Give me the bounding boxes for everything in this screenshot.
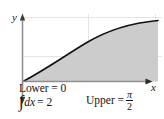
fraction-numerator: π	[126, 90, 133, 101]
pi-over-two-fraction: π 2	[126, 90, 133, 112]
upper-limit-label: Upper =	[86, 95, 124, 107]
integral-dx-label: dx	[24, 97, 35, 109]
fraction-denominator: 2	[126, 101, 133, 112]
integral-expression: ∫ dx = 2	[19, 96, 52, 109]
math-figure-area-under-curve: y x Lower = 0 ∫ dx = 2 Upper = π 2	[0, 0, 164, 119]
lower-limit-label: Lower = 0	[19, 83, 66, 95]
upper-limit-expression: Upper = π 2	[86, 90, 133, 112]
integral-sign-icon: ∫	[19, 96, 24, 109]
y-axis-label: y	[12, 12, 17, 23]
integral-value-label: = 2	[37, 97, 52, 109]
x-axis-label: x	[151, 82, 156, 93]
